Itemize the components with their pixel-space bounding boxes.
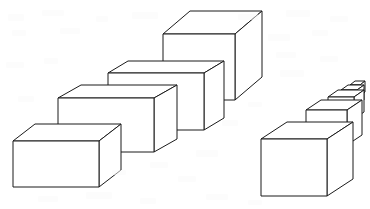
cubes-scene xyxy=(0,0,370,209)
left-box-3-right-face xyxy=(204,61,224,130)
illustration-canvas xyxy=(0,0,370,209)
box-right-box-1 xyxy=(261,122,353,196)
right-box-1-front-face xyxy=(261,139,327,196)
left-box-1-front-face xyxy=(13,141,99,187)
box-left-box-1 xyxy=(13,124,121,187)
